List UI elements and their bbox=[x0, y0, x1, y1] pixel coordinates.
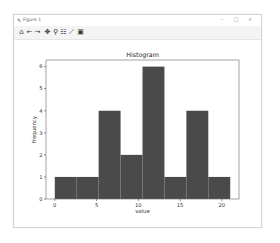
x-tick-label: 15 bbox=[177, 202, 184, 208]
zoom-magnifier-button[interactable]: ⚲ bbox=[52, 28, 59, 36]
save-floppy-icon: ▣ bbox=[77, 28, 84, 36]
figure-canvas: 051015200123456Histogramvaluefrequency bbox=[14, 40, 261, 227]
y-tick-label: 4 bbox=[39, 108, 43, 114]
minimize-button[interactable]: – bbox=[217, 16, 227, 22]
pan-move-button[interactable]: ✥ bbox=[44, 28, 51, 36]
y-axis-label: frequency bbox=[31, 115, 38, 143]
histogram-bar bbox=[99, 111, 121, 199]
y-tick-label: 6 bbox=[39, 63, 42, 69]
home-icon: ⌂ bbox=[19, 28, 23, 36]
x-axis-label: value bbox=[135, 208, 150, 214]
title-bar: ✎ Figure 1 – □ × bbox=[14, 15, 261, 26]
histogram-bar bbox=[186, 111, 208, 199]
histogram-bar bbox=[121, 155, 143, 199]
subplots-config-icon: ☷ bbox=[60, 28, 66, 36]
histogram-bar bbox=[164, 177, 186, 199]
y-tick-label: 0 bbox=[39, 196, 42, 202]
save-floppy-button[interactable]: ▣ bbox=[77, 28, 84, 36]
home-button[interactable]: ⌂ bbox=[18, 28, 25, 36]
edit-axes-button[interactable]: ⟋ bbox=[68, 28, 75, 36]
histogram-chart: 051015200123456Histogramvaluefrequency bbox=[14, 40, 263, 229]
x-tick-label: 10 bbox=[135, 202, 142, 208]
forward-arrow-icon: → bbox=[35, 28, 41, 36]
y-tick-label: 5 bbox=[39, 85, 42, 91]
edit-axes-icon: ⟋ bbox=[69, 28, 74, 36]
pan-move-icon: ✥ bbox=[45, 28, 51, 36]
histogram-bar bbox=[55, 177, 77, 199]
back-arrow-button[interactable]: ← bbox=[26, 28, 33, 36]
x-tick-label: 20 bbox=[219, 202, 226, 208]
app-icon: ✎ bbox=[17, 17, 21, 23]
y-tick-label: 1 bbox=[39, 174, 42, 180]
y-tick-label: 3 bbox=[39, 130, 42, 136]
histogram-bar bbox=[208, 177, 230, 199]
window-title: Figure 1 bbox=[23, 17, 41, 22]
figure-window: ✎ Figure 1 – □ × ⌂←→✥⚲☷⟋▣ 05101520012345… bbox=[13, 14, 262, 228]
navigation-toolbar: ⌂←→✥⚲☷⟋▣ bbox=[14, 26, 261, 40]
y-tick-label: 2 bbox=[39, 152, 42, 158]
maximize-button[interactable]: □ bbox=[231, 16, 241, 22]
histogram-bar bbox=[77, 177, 99, 199]
back-arrow-icon: ← bbox=[27, 28, 33, 36]
subplots-config-button[interactable]: ☷ bbox=[60, 28, 67, 36]
x-tick-label: 5 bbox=[95, 202, 98, 208]
forward-arrow-button[interactable]: → bbox=[34, 28, 41, 36]
histogram-bar bbox=[143, 67, 165, 199]
zoom-magnifier-icon: ⚲ bbox=[53, 28, 58, 36]
chart-title: Histogram bbox=[126, 51, 159, 59]
x-tick-label: 0 bbox=[53, 202, 56, 208]
close-button[interactable]: × bbox=[245, 16, 255, 22]
